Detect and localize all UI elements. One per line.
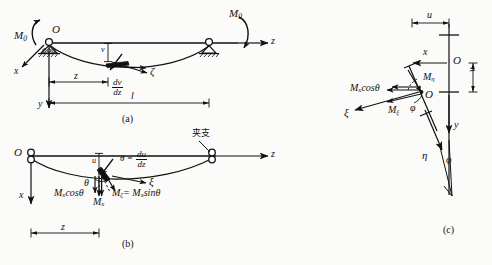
caption-b: (b) bbox=[122, 239, 134, 249]
engineering-figure bbox=[0, 0, 492, 265]
label-slope-dudz-b: du dz bbox=[136, 150, 147, 169]
label-deflection-v-a: v bbox=[101, 46, 105, 54]
meta-vector-c bbox=[408, 70, 421, 92]
label-axis-x-c: x bbox=[423, 47, 427, 57]
label-moment-right-a: M0 bbox=[229, 8, 242, 20]
label-deflection-u-b: u bbox=[92, 157, 96, 165]
label-axis-y-c: y bbox=[454, 120, 458, 130]
label-axis-z-b: z bbox=[271, 149, 275, 159]
label-dim-l-a: l bbox=[131, 91, 134, 101]
label-mxcos-b: Mxcosθ bbox=[54, 188, 84, 199]
slope-arrow-b bbox=[101, 159, 113, 175]
label-meta-c: Mη bbox=[423, 72, 435, 83]
label-axis-y-a: y bbox=[38, 99, 42, 109]
support-right-lower-b bbox=[209, 156, 216, 163]
label-xi-c: ξ bbox=[344, 107, 349, 118]
label-xi-b: ξ bbox=[149, 176, 154, 187]
caption-c: (c) bbox=[443, 225, 454, 235]
label-theta-b: θ bbox=[84, 178, 89, 188]
support-right-upper-b bbox=[209, 149, 216, 156]
label-mx-b: Mx bbox=[93, 197, 104, 208]
label-origin-b: O bbox=[14, 147, 22, 158]
label-slope-eq-b: θ = bbox=[120, 154, 133, 163]
label-axis-x-b: x bbox=[19, 190, 23, 200]
label-dim-v-c: v bbox=[467, 68, 477, 72]
label-phi-upper-c: φ bbox=[410, 103, 416, 113]
label-slope-dvdz-a: dv dz bbox=[112, 78, 123, 97]
origin-dot-c bbox=[420, 90, 424, 94]
label-mzeta-b: Mζ= Mxsinθ bbox=[112, 188, 160, 199]
label-mxcos-c: Mxcosθ bbox=[350, 83, 380, 94]
label-origin-mid-c: O bbox=[425, 89, 433, 100]
support-left-lower-b bbox=[28, 156, 35, 163]
label-dim-u-c: u bbox=[427, 10, 432, 20]
eta-axis-arrow-c bbox=[425, 110, 442, 150]
label-origin-top-c: O bbox=[453, 55, 461, 66]
label-axis-x-a: x bbox=[14, 66, 18, 76]
panel-c-group bbox=[355, 19, 478, 197]
label-moment-left-a: M0 bbox=[14, 30, 27, 42]
support-right-pin-a bbox=[206, 39, 213, 46]
label-mxi-c: Mξ bbox=[388, 105, 399, 116]
support-left-pin-a bbox=[46, 39, 53, 46]
label-origin-a: O bbox=[52, 24, 60, 35]
label-eta-c: η bbox=[422, 150, 427, 161]
label-dim-z-b: z bbox=[61, 222, 65, 232]
label-zeta-a: ζ bbox=[150, 66, 154, 77]
mxi-vector-c bbox=[387, 94, 421, 102]
label-phi-lower-c: φ bbox=[446, 155, 452, 165]
support-note-leader-b bbox=[199, 141, 210, 152]
caption-a: (a) bbox=[122, 114, 133, 124]
support-left-upper-b bbox=[28, 149, 35, 156]
moment-arc-left-a bbox=[32, 20, 40, 45]
label-support-note-b: 夹支 bbox=[192, 129, 210, 138]
label-axis-z-a: z bbox=[271, 36, 275, 46]
x-axis-a bbox=[22, 45, 44, 67]
label-dim-z-a: z bbox=[74, 71, 78, 81]
